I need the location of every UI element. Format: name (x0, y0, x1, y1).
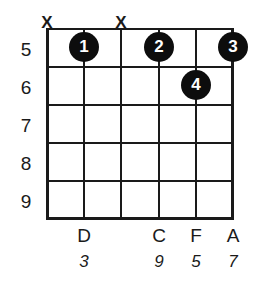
interval-label-string-5: 5 (181, 253, 211, 270)
note-label-string-5: F (181, 226, 211, 245)
fret-line-7-8 (46, 142, 234, 144)
finger-dot-4[interactable]: 4 (181, 70, 211, 100)
finger-dot-3[interactable]: 3 (218, 32, 248, 62)
mute-marker-string-3: X (113, 15, 129, 31)
chord-diagram: 5 6 7 8 9 X X 1 2 3 4 D C F A 3 9 5 7 (0, 0, 260, 281)
string-line-3 (120, 28, 122, 220)
finger-dot-2[interactable]: 2 (144, 32, 174, 62)
fret-line-5-6 (46, 66, 234, 68)
fret-line-8-9 (46, 180, 234, 182)
finger-dot-1[interactable]: 1 (69, 32, 99, 62)
fret-line-bottom (46, 217, 234, 220)
note-label-string-2: D (69, 226, 99, 245)
interval-label-string-2: 3 (69, 253, 99, 270)
fret-number-9: 9 (14, 192, 38, 211)
mute-marker-string-1: X (39, 15, 55, 31)
interval-label-string-4: 9 (144, 253, 174, 270)
interval-label-string-6: 7 (218, 253, 248, 270)
fret-line-6-7 (46, 104, 234, 106)
fret-number-6: 6 (14, 78, 38, 97)
nut-line (46, 28, 234, 30)
fret-number-8: 8 (14, 154, 38, 173)
string-line-5 (195, 28, 197, 220)
string-line-1 (46, 28, 49, 220)
note-label-string-4: C (144, 226, 174, 245)
fret-number-7: 7 (14, 116, 38, 135)
note-label-string-6: A (218, 226, 248, 245)
fret-number-5: 5 (14, 40, 38, 59)
